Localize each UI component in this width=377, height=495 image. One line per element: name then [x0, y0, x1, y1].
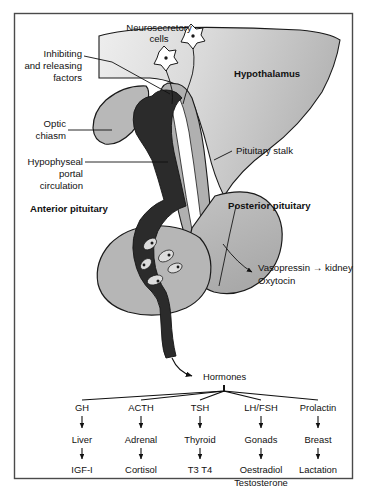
cascade-column-acth: ACTH Adrenal Cortisol	[125, 402, 157, 475]
label-posterior-pituitary: Posterior pituitary	[228, 200, 311, 211]
label-pituitary-stalk: Pituitary stalk	[236, 145, 293, 156]
cascade-hormone-2: TSH	[191, 402, 210, 413]
cascade-effect-3: Oestradiol	[240, 464, 283, 475]
cascade-effect-1: Cortisol	[125, 464, 157, 475]
label-hypothalamus: Hypothalamus	[234, 68, 300, 79]
cascade-effect-2: T3 T4	[188, 464, 212, 475]
cascade-effect-0: IGF-I	[71, 464, 92, 475]
label-optic-chiasm-line1: Optic	[44, 118, 67, 129]
cascade-target-0: Liver	[72, 434, 92, 445]
cascade-column-prolactin: Prolactin Breast Lactation	[299, 402, 337, 475]
cascade-effect-3b: Testosterone	[234, 477, 288, 488]
label-hypophyseal-line2: portal	[59, 168, 83, 179]
cascade-hormone-1: ACTH	[128, 402, 154, 413]
cascade-effect-4: Lactation	[299, 464, 337, 475]
label-inhibiting-line3: factors	[53, 72, 82, 83]
figure-canvas: Neurosecretory cells Inhibiting and rele…	[0, 0, 377, 495]
label-oxytocin: Oxytocin	[258, 275, 295, 286]
cascade-hormone-0: GH	[75, 402, 89, 413]
label-anterior-pituitary: Anterior pituitary	[30, 203, 108, 214]
label-neurosecretory-line2: cells	[149, 33, 168, 44]
label-vasopressin: Vasopressin → kidney	[258, 262, 353, 273]
cascade-root-label: Hormones	[203, 371, 247, 382]
cascade-target-2: Thyroid	[184, 434, 215, 445]
cascade-target-1: Adrenal	[125, 434, 157, 445]
label-neurosecretory-line1: Neurosecretory	[126, 22, 192, 33]
cascade-hormone-3: LH/FSH	[244, 402, 277, 413]
cascade-target-3: Gonads	[245, 434, 278, 445]
label-inhibiting-line1: Inhibiting	[44, 48, 82, 59]
cascade-hormone-4: Prolactin	[300, 402, 336, 413]
label-optic-chiasm-line2: chiasm	[36, 130, 66, 141]
cascade-target-4: Breast	[304, 434, 331, 445]
label-hypophyseal-line3: circulation	[40, 180, 83, 191]
label-inhibiting-line2: and releasing	[24, 60, 82, 71]
label-hypophyseal-line1: Hypophyseal	[28, 156, 83, 167]
hypothalamic-pituitary-diagram: Neurosecretory cells Inhibiting and rele…	[0, 0, 377, 495]
